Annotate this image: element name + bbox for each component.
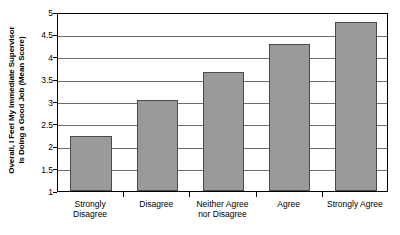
x-axis-category-label-line: Agree [256, 199, 322, 209]
y-axis-tick-label: 3 [33, 98, 53, 107]
y-axis-title-line-1: Overall, I Feel My Immediate Supervisor [7, 26, 17, 173]
x-axis-tick-mark [322, 192, 323, 197]
x-axis-category-label-line: Disagree [123, 199, 189, 209]
y-axis-tick-label: 1.5 [33, 165, 53, 174]
y-axis-tick-label: 3.5 [33, 76, 53, 85]
x-axis-tick-mark [123, 192, 124, 197]
y-axis-tick-label: 2.5 [33, 120, 53, 129]
x-axis-category-label: Disagree [123, 199, 189, 209]
y-axis-tick-label: 1 [33, 188, 53, 197]
x-axis-tick-mark [256, 192, 257, 197]
x-axis-category-label-line: nor Disagree [189, 209, 255, 219]
bar [335, 22, 376, 191]
x-axis-category-label: StronglyDisagree [57, 199, 123, 219]
bar [70, 136, 111, 191]
x-axis-category-label-line: Neither Agree [189, 199, 255, 209]
bar [269, 44, 310, 191]
x-axis-category-label: Agree [256, 199, 322, 209]
bar [203, 72, 244, 191]
bar-chart: Overall, I Feel My Immediate Supervisor … [0, 0, 400, 235]
x-axis-category-label-line: Disagree [57, 209, 123, 219]
y-axis-tick-label: 2 [33, 143, 53, 152]
plot-area [57, 13, 388, 192]
y-axis-tick-label: 5 [33, 9, 53, 18]
x-axis-category-label: Strongly Agree [322, 199, 388, 209]
y-axis-title-line-2: Is Doing a Good Job (Mean Score) [17, 26, 27, 173]
y-axis-tick-label: 4.5 [33, 31, 53, 40]
y-axis-tick-label: 4 [33, 53, 53, 62]
y-axis-title: Overall, I Feel My Immediate Supervisor … [0, 0, 33, 200]
x-axis-tick-mark [189, 192, 190, 197]
x-axis-category-label-line: Strongly Agree [322, 199, 388, 209]
bar [137, 100, 178, 191]
x-axis-category-label-line: Strongly [57, 199, 123, 209]
x-axis-category-label: Neither Agreenor Disagree [189, 199, 255, 219]
